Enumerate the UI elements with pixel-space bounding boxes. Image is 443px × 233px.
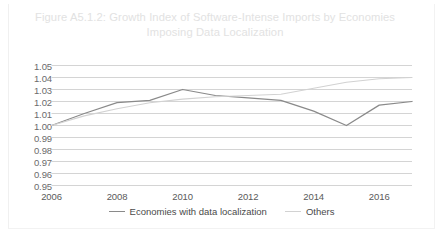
legend-swatch [285,211,301,212]
series-line-1 [52,90,413,126]
x-tick-label: 2012 [238,191,259,202]
legend-item: Economies with data localization [109,206,267,217]
chart-legend: Economies with data localizationOthers [0,206,443,217]
plot-area: 200620082010201220142016 [0,0,443,233]
x-tick-label: 2010 [172,191,193,202]
legend-label: Others [306,206,335,217]
x-tick-label: 2008 [107,191,128,202]
gridlines [52,66,413,186]
x-tick-label: 2006 [41,191,62,202]
x-tick-label: 2014 [303,191,324,202]
x-tick-label: 2016 [369,191,390,202]
legend-item: Others [285,206,335,217]
legend-label: Economies with data localization [130,206,267,217]
legend-swatch [109,211,125,212]
